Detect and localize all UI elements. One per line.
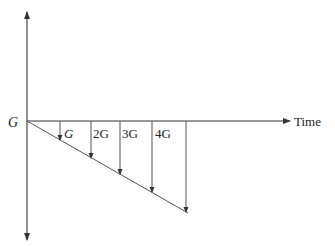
- arrow-label-1: G: [64, 126, 74, 141]
- arrow-label-3: 3G: [122, 126, 138, 141]
- arrow-label-4: 4G: [155, 126, 171, 141]
- x-axis-label: Time: [294, 114, 321, 129]
- diagram: G Time G 2G 3G 4G: [0, 0, 335, 247]
- arrow-label-2: 2G: [93, 126, 109, 141]
- y-axis-label: G: [8, 115, 18, 130]
